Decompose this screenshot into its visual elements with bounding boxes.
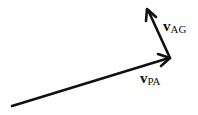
vector-ag-label: vAG — [163, 18, 186, 34]
vector-pa-label: vPA — [140, 70, 161, 86]
vector-ag-label-main: v — [163, 18, 171, 34]
vector-diagram: vAG vPA — [0, 0, 198, 115]
vector-pa-label-sub: PA — [148, 75, 161, 87]
vector-ag-label-sub: AG — [171, 23, 187, 35]
vector-pa-label-main: v — [140, 70, 148, 86]
